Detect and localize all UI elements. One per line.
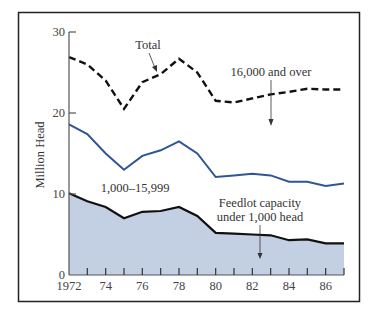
y-tick-label: 30 — [53, 25, 66, 39]
x-tick-label: 80 — [209, 279, 222, 293]
annotation-feedlot-line2: under 1,000 head — [217, 210, 304, 224]
arrow-down-icon — [269, 119, 274, 126]
x-tick-label: 86 — [319, 279, 332, 293]
x-tick-label: 74 — [99, 279, 112, 293]
x-tick-label: 84 — [283, 279, 296, 293]
x-tick-label: 78 — [173, 279, 186, 293]
chart-figure: 0102030 197274767880828486 Million Head … — [0, 0, 377, 321]
mid-size-series-line — [69, 124, 344, 186]
y-tick-label: 10 — [53, 187, 66, 201]
x-tick-label: 82 — [246, 279, 259, 293]
arrow-icon — [152, 65, 157, 72]
annotation-feedlot-line1: Feedlot capacity — [219, 196, 302, 210]
x-tick-label: 76 — [136, 279, 149, 293]
total-pointer-line — [149, 53, 155, 68]
annotation-1000-15999: 1,000–15,999 — [101, 181, 170, 195]
y-tick-label: 20 — [53, 106, 66, 120]
feedlot-under-1000-series — [69, 193, 344, 275]
x-tick-label: 1972 — [57, 279, 82, 293]
annotation-16000-and-over: 16,000 and over — [231, 65, 313, 79]
annotation-total: Total — [135, 38, 161, 52]
y-axis-label: Million Head — [33, 121, 47, 189]
